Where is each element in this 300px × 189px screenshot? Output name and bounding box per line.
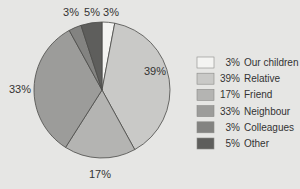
legend-label: Colleagues — [244, 122, 294, 133]
legend-value: 33% — [220, 106, 240, 117]
legend-value: 3% — [226, 57, 241, 68]
legend-swatch — [197, 106, 214, 117]
legend-item: 3%Colleagues — [197, 122, 294, 133]
legend-value: 3% — [226, 122, 241, 133]
legend-swatch — [197, 138, 214, 149]
legend-value: 17% — [220, 89, 240, 100]
pie-chart: 3%39%17%33%3%5% 3%Our children39%Relativ… — [0, 0, 300, 189]
pie-slices — [34, 22, 170, 158]
legend-item: 39%Relative — [197, 73, 281, 84]
legend-swatch — [197, 73, 214, 84]
legend-swatch — [197, 89, 214, 100]
legend-value: 39% — [220, 73, 240, 84]
legend-label: Relative — [244, 73, 281, 84]
legend-label: Other — [244, 138, 270, 149]
legend-item: 5%Other — [197, 138, 270, 149]
legend-item: 33%Neighbour — [197, 106, 291, 117]
legend-label: Neighbour — [244, 106, 291, 117]
data-label: 39% — [144, 65, 166, 77]
data-label: 5% — [84, 6, 100, 18]
legend-label: Our children — [244, 57, 298, 68]
legend-swatch — [197, 122, 214, 133]
legend-item: 3%Our children — [197, 57, 298, 68]
data-label: 33% — [9, 83, 31, 95]
legend: 3%Our children39%Relative17%Friend33%Nei… — [197, 57, 298, 149]
legend-value: 5% — [226, 138, 241, 149]
legend-item: 17%Friend — [197, 89, 272, 100]
data-label: 3% — [103, 6, 119, 18]
legend-label: Friend — [244, 89, 272, 100]
data-label: 3% — [63, 6, 79, 18]
legend-swatch — [197, 57, 214, 68]
data-label: 17% — [89, 168, 111, 180]
